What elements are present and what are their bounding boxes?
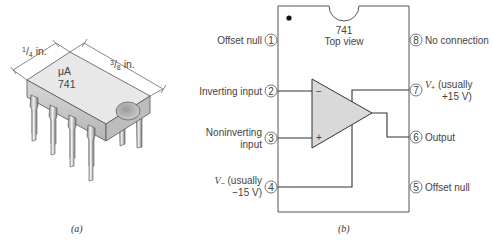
svg-text:6: 6 bbox=[413, 132, 419, 143]
pin-7: 7 V+ (usually +15 V) bbox=[410, 79, 472, 102]
pin-5-label: Offset null bbox=[425, 182, 470, 193]
svg-text:5: 5 bbox=[413, 182, 419, 193]
svg-text:3: 3 bbox=[268, 133, 274, 144]
opamp-noninverting-sign: + bbox=[316, 132, 322, 143]
caption-b: (b) bbox=[338, 223, 350, 235]
pin-3-label-line1: Noninverting bbox=[206, 127, 262, 138]
svg-text:2: 2 bbox=[268, 86, 274, 97]
dip-package-drawing: μA 741 1/4 in. 3/8 in. bbox=[11, 39, 166, 181]
pin-7-label-line1: V+ (usually bbox=[425, 79, 472, 91]
chip-label-number: 741 bbox=[58, 78, 76, 90]
pin1-indicator-dot bbox=[286, 15, 291, 20]
pin-3-label-line2: input bbox=[240, 139, 262, 150]
pin-6: 6 Output bbox=[410, 131, 455, 143]
pin-8: 8 No connection bbox=[410, 34, 489, 46]
pin-4-label-line2: −15 V) bbox=[232, 187, 262, 198]
pin-1: 1 Offset null bbox=[217, 34, 277, 46]
svg-text:4: 4 bbox=[268, 182, 274, 193]
pin-8-label: No connection bbox=[425, 35, 489, 46]
opamp-inverting-sign: − bbox=[316, 86, 322, 97]
length-dimension-label: 3/8 in. bbox=[110, 58, 135, 71]
caption-a: (a) bbox=[71, 223, 83, 235]
width-dimension-label: 1/4 in. bbox=[22, 45, 47, 58]
svg-text:1: 1 bbox=[268, 35, 274, 46]
pin-4: 4 V− (usually −15 V) bbox=[215, 175, 277, 198]
package-subtitle: Top view bbox=[325, 36, 365, 47]
pin-6-label: Output bbox=[425, 132, 455, 143]
pin-1-label: Offset null bbox=[217, 35, 262, 46]
figure-canvas: μA 741 1/4 in. 3/8 in. (a) 741 T bbox=[0, 0, 492, 243]
svg-text:8: 8 bbox=[413, 35, 419, 46]
chip-label-brand: μA bbox=[58, 65, 71, 77]
pin-2: 2 Inverting input bbox=[199, 85, 277, 97]
chip-notch bbox=[116, 102, 140, 120]
pin-7-label-line2: +15 V) bbox=[442, 91, 472, 102]
package-title: 741 bbox=[336, 25, 353, 36]
pin-4-label-line1: V− (usually bbox=[215, 175, 262, 187]
pin-2-label: Inverting input bbox=[199, 86, 262, 97]
svg-text:7: 7 bbox=[413, 85, 419, 96]
pin-3: 3 Noninverting input bbox=[206, 127, 277, 150]
pinout-diagram: 741 Top view − + 1 Offset null 2 Inverti… bbox=[199, 6, 489, 212]
pin-5: 5 Offset null bbox=[410, 181, 470, 193]
